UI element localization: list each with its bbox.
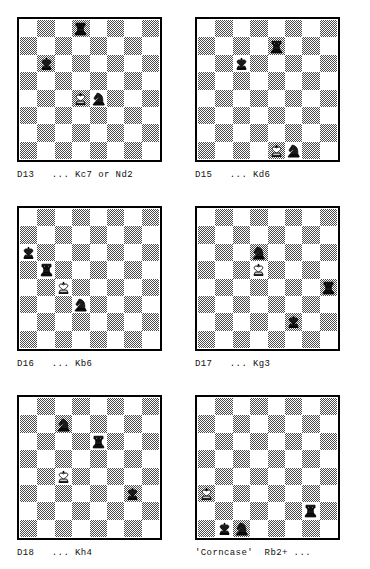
square-e3 bbox=[268, 107, 285, 124]
square-g3 bbox=[124, 107, 141, 124]
square-d7 bbox=[72, 226, 89, 243]
square-e5 bbox=[268, 72, 285, 89]
square-g8 bbox=[302, 20, 319, 37]
square-d7 bbox=[72, 37, 89, 54]
square-d3 bbox=[250, 485, 267, 502]
square-g8 bbox=[124, 20, 141, 37]
square-b8 bbox=[37, 209, 54, 226]
square-d4 bbox=[250, 468, 267, 485]
square-c6 bbox=[233, 55, 250, 72]
square-h7 bbox=[142, 415, 159, 432]
square-a7 bbox=[198, 415, 215, 432]
square-a5 bbox=[198, 450, 215, 467]
square-h8 bbox=[142, 398, 159, 415]
board-frame bbox=[17, 395, 162, 540]
square-a4 bbox=[198, 468, 215, 485]
square-e2 bbox=[268, 502, 285, 519]
square-d3 bbox=[250, 107, 267, 124]
square-g7 bbox=[124, 37, 141, 54]
square-f1 bbox=[285, 142, 302, 159]
square-e5 bbox=[90, 72, 107, 89]
square-f7 bbox=[285, 415, 302, 432]
square-a8 bbox=[198, 398, 215, 415]
square-f5 bbox=[285, 450, 302, 467]
square-f2 bbox=[107, 124, 124, 141]
square-b8 bbox=[215, 209, 232, 226]
piece-black-king-b6 bbox=[37, 55, 54, 72]
square-h3 bbox=[142, 485, 159, 502]
diagram-sheet: D13 ... Kc7 or Nd2D15 ... Kd6D16 ... Kb6… bbox=[0, 0, 370, 569]
square-e7 bbox=[90, 37, 107, 54]
square-f3 bbox=[285, 485, 302, 502]
square-g4 bbox=[124, 468, 141, 485]
square-a3 bbox=[20, 485, 37, 502]
diagram-caption: D13 ... Kc7 or Nd2 bbox=[17, 170, 162, 180]
square-e4 bbox=[90, 90, 107, 107]
square-f6 bbox=[107, 244, 124, 261]
square-e6 bbox=[268, 433, 285, 450]
square-d1 bbox=[72, 142, 89, 159]
square-f2 bbox=[107, 502, 124, 519]
piece-black-king-f2 bbox=[285, 313, 302, 330]
square-d6 bbox=[72, 55, 89, 72]
square-g2 bbox=[124, 313, 141, 330]
square-h2 bbox=[142, 502, 159, 519]
square-h4 bbox=[142, 279, 159, 296]
square-f8 bbox=[107, 20, 124, 37]
square-d3 bbox=[72, 107, 89, 124]
square-c2 bbox=[55, 124, 72, 141]
square-d3 bbox=[72, 485, 89, 502]
square-f8 bbox=[285, 20, 302, 37]
square-h3 bbox=[142, 107, 159, 124]
square-f7 bbox=[107, 226, 124, 243]
square-e8 bbox=[268, 209, 285, 226]
square-b7 bbox=[37, 37, 54, 54]
diagram-corncase: 'Corncase' Rb2+ ... bbox=[195, 395, 340, 558]
square-a4 bbox=[20, 279, 37, 296]
square-b8 bbox=[37, 20, 54, 37]
square-e5 bbox=[268, 261, 285, 278]
square-b7 bbox=[37, 415, 54, 432]
square-b1 bbox=[37, 142, 54, 159]
diagram-d13: D13 ... Kc7 or Nd2 bbox=[17, 17, 162, 180]
square-f6 bbox=[107, 55, 124, 72]
square-a4 bbox=[198, 90, 215, 107]
square-g6 bbox=[302, 433, 319, 450]
square-h2 bbox=[142, 124, 159, 141]
square-e4 bbox=[268, 468, 285, 485]
diagram-d15: D15 ... Kd6 bbox=[195, 17, 340, 180]
square-g1 bbox=[124, 142, 141, 159]
square-d4 bbox=[250, 90, 267, 107]
square-g5 bbox=[124, 72, 141, 89]
square-e6 bbox=[90, 55, 107, 72]
piece-black-knight-c1 bbox=[233, 520, 250, 537]
square-h7 bbox=[320, 226, 337, 243]
square-b5 bbox=[215, 72, 232, 89]
square-c5 bbox=[233, 261, 250, 278]
square-b6 bbox=[37, 55, 54, 72]
square-a6 bbox=[20, 433, 37, 450]
square-h3 bbox=[320, 107, 337, 124]
square-b2 bbox=[37, 124, 54, 141]
square-c3 bbox=[55, 107, 72, 124]
square-a3 bbox=[198, 296, 215, 313]
square-c2 bbox=[233, 124, 250, 141]
square-d6 bbox=[250, 55, 267, 72]
square-b3 bbox=[37, 485, 54, 502]
square-c1 bbox=[55, 142, 72, 159]
square-g6 bbox=[302, 244, 319, 261]
square-a2 bbox=[198, 313, 215, 330]
square-h6 bbox=[320, 244, 337, 261]
square-c6 bbox=[55, 55, 72, 72]
square-h8 bbox=[142, 209, 159, 226]
square-a2 bbox=[198, 502, 215, 519]
square-d5 bbox=[250, 450, 267, 467]
square-e7 bbox=[90, 226, 107, 243]
square-a4 bbox=[198, 279, 215, 296]
square-h4 bbox=[320, 279, 337, 296]
diagram-d16: D16 ... Kb6 bbox=[17, 206, 162, 369]
square-f3 bbox=[107, 296, 124, 313]
square-h5 bbox=[320, 72, 337, 89]
square-a8 bbox=[20, 20, 37, 37]
diagram-caption: D16 ... Kb6 bbox=[17, 359, 162, 369]
